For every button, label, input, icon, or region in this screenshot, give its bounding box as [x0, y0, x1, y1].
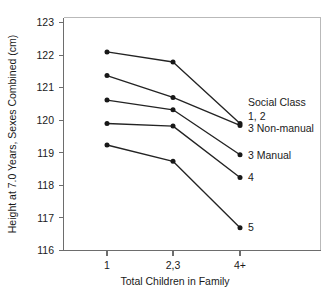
data-point	[105, 73, 110, 78]
legend-title: Social Class	[248, 96, 306, 108]
y-tick-label: 119	[37, 147, 54, 159]
y-tick-label: 122	[36, 49, 54, 61]
data-point	[171, 107, 176, 112]
series-label-3-manual: 3 Manual	[248, 149, 291, 161]
data-point	[171, 60, 176, 65]
legend: Social Class 1, 2 3 Non-manual 3 Manual …	[248, 96, 314, 233]
data-point	[105, 98, 110, 103]
y-tick-label: 116	[37, 244, 54, 256]
y-axis-ticks	[59, 23, 64, 251]
series-label-4: 4	[248, 171, 254, 183]
chart-figure: 116 117 118 119 120 121 122 123 1 2,3 4+…	[0, 0, 336, 295]
x-tick-label: 1	[104, 259, 110, 271]
x-axis-title: Total Children in Family	[120, 275, 230, 287]
series-line-3-non-manual	[105, 73, 243, 128]
y-axis-tick-labels: 116 117 118 119 120 121 122 123	[36, 16, 54, 256]
series-line-4	[105, 121, 243, 180]
data-point	[238, 175, 243, 180]
y-tick-label: 117	[37, 212, 54, 224]
y-tick-label: 123	[36, 16, 54, 28]
y-tick-label: 120	[36, 114, 54, 126]
x-tick-label: 4+	[234, 259, 246, 271]
data-point	[238, 123, 243, 128]
data-point	[105, 49, 110, 54]
data-point	[238, 152, 243, 157]
y-axis-title: Height at 7.0 Years, Sexes Combined (cm)	[6, 35, 18, 233]
axes	[64, 18, 321, 251]
data-point	[105, 143, 110, 148]
data-point	[171, 124, 176, 129]
x-axis-tick-labels: 1 2,3 4+	[104, 259, 246, 271]
data-point	[238, 225, 243, 230]
y-tick-label: 118	[37, 179, 54, 191]
line-chart-canvas: 116 117 118 119 120 121 122 123 1 2,3 4+…	[0, 0, 336, 295]
series-label-5: 5	[248, 221, 254, 233]
data-point	[171, 159, 176, 164]
y-tick-label: 121	[36, 81, 54, 93]
plot-frame	[64, 18, 321, 251]
series-label-1-2: 1, 2	[248, 110, 266, 122]
x-axis-ticks	[107, 251, 240, 257]
series-label-3-non-manual: 3 Non-manual	[248, 122, 314, 134]
series-line-5	[105, 143, 243, 231]
series-line-1-2	[105, 49, 243, 126]
data-point	[171, 95, 176, 100]
x-tick-label: 2,3	[166, 259, 181, 271]
data-point	[105, 121, 110, 126]
